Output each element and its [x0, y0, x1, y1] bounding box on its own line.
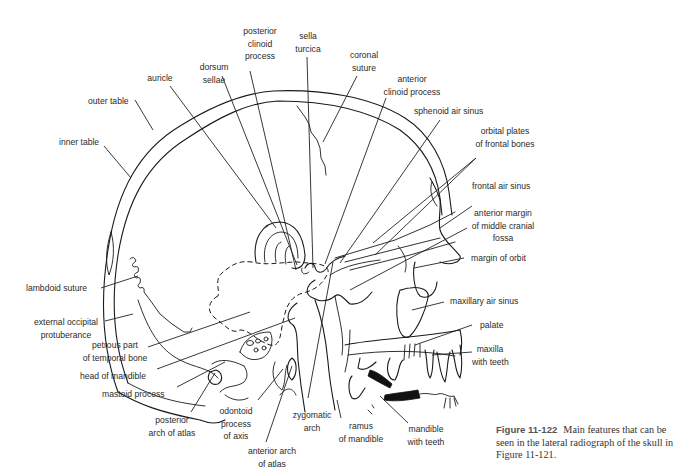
- skull-lateral-diagram: posterior clinoid process sella turcica …: [0, 0, 686, 471]
- posterior-fossa-dashed: [209, 262, 328, 346]
- label-external-occipital-protuberance: external occipital protuberance: [26, 316, 106, 341]
- label-line: zygomatic: [290, 409, 334, 422]
- figure-number: Figure 11-122: [496, 424, 557, 435]
- maxillary-sinus-shape: [397, 287, 429, 337]
- label-line: sella: [292, 30, 324, 43]
- atlas-arch-shape: [208, 370, 221, 384]
- label-line: mandible: [404, 423, 448, 436]
- coronal-suture-line: [297, 106, 326, 175]
- label-maxilla-with-teeth: maxilla with teeth: [472, 343, 508, 368]
- label-outer-table: outer table: [88, 95, 129, 108]
- label-head-of-mandible: head of mandible: [80, 370, 146, 383]
- label-line: with teeth: [404, 436, 448, 449]
- label-line: mastoid process: [102, 388, 165, 401]
- label-line: sellae: [194, 74, 234, 87]
- label-inner-table: inner table: [59, 136, 99, 149]
- skull-inner-table: [114, 101, 442, 383]
- label-line: arch: [290, 422, 334, 435]
- label-line: lambdoid suture: [26, 282, 87, 295]
- label-auricle: auricle: [143, 72, 177, 85]
- figure-caption: Figure 11-122Main features that can be s…: [496, 424, 686, 462]
- label-line: process: [232, 50, 288, 63]
- label-line: anterior margin: [468, 207, 538, 220]
- auricle-shape: [255, 222, 305, 268]
- frontal-sinus-shape: [430, 178, 460, 264]
- label-line: margin of orbit: [471, 252, 526, 265]
- label-line: posterior: [232, 25, 288, 38]
- label-line: posterior: [144, 414, 200, 427]
- label-line: of axis: [216, 430, 256, 443]
- label-line: of frontal bones: [470, 138, 540, 151]
- label-mastoid-process: mastoid process: [102, 388, 165, 401]
- label-line: coronal: [344, 49, 384, 62]
- label-coronal-suture: coronal suture: [344, 49, 384, 74]
- label-petrous-part-temporal-bone: petrous part of temporal bone: [78, 339, 152, 364]
- label-frontal-air-sinus: frontal air sinus: [472, 180, 530, 193]
- label-line: odontoid: [216, 405, 256, 418]
- label-line: palate: [480, 319, 503, 332]
- label-line: of atlas: [244, 458, 300, 471]
- label-line: maxillary air sinus: [450, 295, 518, 308]
- label-line: clinoid process: [377, 86, 447, 99]
- label-mandible-with-teeth: mandible with teeth: [404, 423, 448, 448]
- label-line: fossa: [468, 232, 538, 245]
- label-zygomatic-arch: zygomatic arch: [290, 409, 334, 434]
- label-sphenoid-air-sinus: sphenoid air sinus: [414, 105, 483, 118]
- label-line: orbital plates: [470, 125, 540, 138]
- label-odontoid-process-of-axis: odontoid process of axis: [216, 405, 256, 443]
- label-ramus-of-mandible: ramus of mandible: [336, 420, 386, 445]
- label-anterior-arch-of-atlas: anterior arch of atlas: [244, 445, 300, 470]
- label-line: of mandible: [336, 433, 386, 446]
- label-line: frontal air sinus: [472, 180, 530, 193]
- label-line: head of mandible: [80, 370, 146, 383]
- label-line: ramus: [336, 420, 386, 433]
- label-line: anterior arch: [244, 445, 300, 458]
- label-line: auricle: [143, 72, 177, 85]
- label-line: arch of atlas: [144, 427, 200, 440]
- label-line: sphenoid air sinus: [414, 105, 483, 118]
- label-line: with teeth: [472, 356, 508, 369]
- label-line: outer table: [88, 95, 129, 108]
- label-line: dorsum: [194, 61, 234, 74]
- label-palate: palate: [480, 319, 503, 332]
- lambdoid-suture-line: [130, 257, 192, 332]
- label-line: external occipital: [26, 316, 106, 329]
- label-posterior-arch-of-atlas: posterior arch of atlas: [144, 414, 200, 439]
- label-line: petrous part: [78, 339, 152, 352]
- label-maxillary-air-sinus: maxillary air sinus: [450, 295, 518, 308]
- label-dorsum-sellae: dorsum sellae: [194, 61, 234, 86]
- label-line: turcica: [292, 43, 324, 56]
- label-lambdoid-suture: lambdoid suture: [26, 282, 87, 295]
- label-line: clinoid: [232, 38, 288, 51]
- label-line: process: [216, 418, 256, 431]
- skull-outer-table: [104, 91, 452, 392]
- label-posterior-clinoid-process: posterior clinoid process: [232, 25, 288, 63]
- label-anterior-clinoid-process: anterior clinoid process: [377, 73, 447, 98]
- label-margin-of-orbit: margin of orbit: [471, 252, 526, 265]
- label-line: of middle cranial: [468, 220, 538, 233]
- label-anterior-margin-middle-cranial-fossa: anterior margin of middle cranial fossa: [468, 207, 538, 245]
- label-line: inner table: [59, 136, 99, 149]
- label-line: maxilla: [472, 343, 508, 356]
- label-line: of temporal bone: [78, 352, 152, 365]
- label-sella-turcica: sella turcica: [292, 30, 324, 55]
- label-line: anterior: [377, 73, 447, 86]
- label-orbital-plates: orbital plates of frontal bones: [470, 125, 540, 150]
